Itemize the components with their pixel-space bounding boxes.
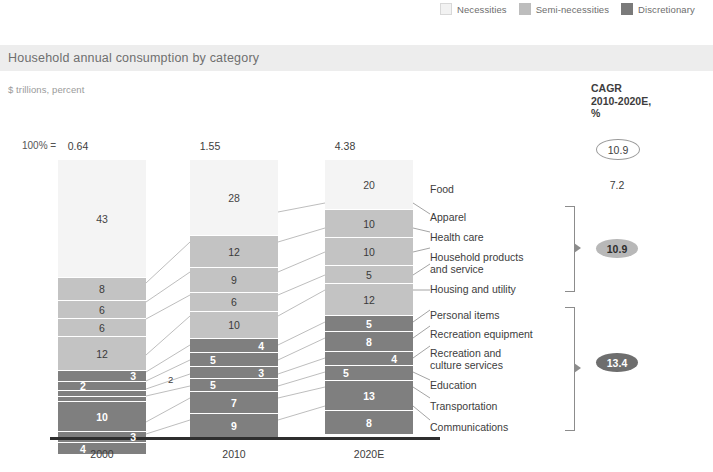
bar-segment[interactable]: 5	[325, 266, 413, 284]
bar-column-2010: 28 12 9 6 10 4 5 3 5 7 9	[190, 160, 278, 439]
stacked-bar-plot: 43 8 6 6 12 3 2 10 3 4 28 12 9 6 10 4 5 …	[0, 160, 713, 450]
cagr-header-line1: CAGR	[591, 82, 651, 95]
chart-root: Necessities Semi-necessities Discretiona…	[0, 0, 713, 472]
axis-label-2020e: 2020E	[325, 448, 413, 460]
category-label-communications: Communications	[430, 422, 508, 434]
brace-arrow-discretionary	[574, 363, 581, 373]
legend-label-discretionary: Discretionary	[638, 4, 695, 15]
category-label-food: Food	[430, 184, 454, 196]
bar-segment[interactable]: 10	[325, 238, 413, 266]
page-title: Household annual consumption by category	[8, 51, 259, 65]
chart-subtitle: $ trillions, percent	[8, 84, 84, 95]
bar-segment[interactable]: 6	[58, 301, 146, 319]
total-2020e: 4.38	[300, 140, 390, 152]
bar-segment[interactable]: 43	[58, 160, 146, 278]
axis-label-2000: 2000	[58, 448, 146, 460]
category-label-household-products: Household products and service	[430, 252, 523, 275]
bar-segment[interactable]: 20	[325, 160, 413, 210]
category-label-transportation: Transportation	[430, 401, 497, 413]
bar-segment[interactable]: 28	[190, 160, 278, 236]
bar-segment[interactable]: 2	[58, 382, 146, 391]
category-label-recreation-culture: Recreation and culture services	[430, 348, 503, 371]
cagr-bubble-discretionary: 13.4	[596, 353, 638, 372]
bar-column-2020e: 20 10 10 5 12 5 8 4 5 13 8	[325, 160, 413, 435]
category-label-housing-and-utility: Housing and utility	[430, 284, 516, 296]
bar-segment[interactable]: 8	[325, 332, 413, 352]
bar-segment[interactable]: 8	[325, 411, 413, 435]
total-2010: 1.55	[165, 140, 255, 152]
cagr-bubble-overall: 10.9	[596, 139, 640, 160]
bar-segment[interactable]: 13	[325, 381, 413, 411]
brace-arrow-semi-necessities	[574, 243, 581, 253]
bar-segment[interactable]: 6	[58, 319, 146, 337]
bar-segment[interactable]: 4	[325, 352, 413, 366]
cagr-header-line2: 2010-2020E,	[591, 95, 651, 108]
category-label-apparel: Apparel	[430, 212, 466, 224]
axis-baseline	[50, 437, 440, 440]
bar-segment[interactable]: 4	[190, 339, 278, 353]
bar-segment[interactable]: 9	[190, 268, 278, 293]
bar-segment[interactable]: 5	[190, 353, 278, 367]
cagr-header-line3: %	[591, 107, 651, 120]
chart-legend: Necessities Semi-necessities Discretiona…	[440, 3, 695, 15]
bar-segment[interactable]: 3	[58, 371, 146, 382]
bar-segment[interactable]: 8	[58, 278, 146, 301]
category-label-education: Education	[430, 380, 477, 392]
bar-segment[interactable]: 12	[325, 284, 413, 316]
bar-segment[interactable]: 5	[190, 379, 278, 392]
category-label-health-care: Health care	[430, 232, 484, 244]
bar-segment[interactable]: 10	[325, 210, 413, 238]
legend-swatch-icon	[621, 3, 633, 15]
axis-label-2010: 2010	[190, 448, 278, 460]
category-label-personal-items: Personal items	[430, 310, 499, 322]
cagr-value-food: 7.2	[596, 175, 638, 194]
bar-column-2000: 43 8 6 6 12 3 2 10 3 4	[58, 160, 146, 455]
bar-segment[interactable]: 12	[58, 337, 146, 371]
external-value-label-col1-recreation: 2	[168, 374, 173, 385]
bar-segment[interactable]: 3	[190, 367, 278, 379]
bar-segment[interactable]: 5	[325, 366, 413, 381]
cagr-column-header: CAGR 2010-2020E, %	[591, 82, 651, 120]
bar-segment[interactable]: 10	[190, 312, 278, 339]
category-label-recreation-equipment: Recreation equipment	[430, 329, 533, 341]
legend-item-necessities: Necessities	[440, 3, 507, 15]
bar-segment[interactable]: 6	[190, 293, 278, 312]
bar-segment[interactable]: 5	[325, 316, 413, 332]
legend-swatch-icon	[440, 3, 452, 15]
bar-segment[interactable]: 7	[190, 392, 278, 414]
legend-label-necessities: Necessities	[457, 4, 507, 15]
legend-swatch-icon	[519, 3, 531, 15]
cagr-bubble-semi-necessities: 10.9	[596, 239, 638, 258]
legend-item-discretionary: Discretionary	[621, 3, 695, 15]
legend-label-semi-necessities: Semi-necessities	[536, 4, 609, 15]
legend-item-semi-necessities: Semi-necessities	[519, 3, 609, 15]
bar-segment[interactable]: 10	[58, 402, 146, 432]
bar-segment[interactable]: 12	[190, 236, 278, 268]
bar-segment[interactable]: 9	[190, 414, 278, 439]
total-2000: 0.64	[33, 140, 123, 152]
